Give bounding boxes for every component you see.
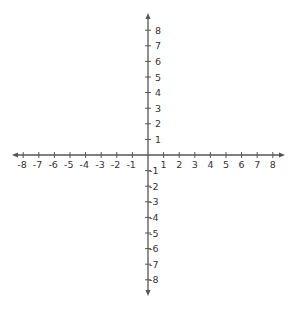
y-tick-label: -5	[149, 228, 158, 239]
x-tick-label: -7	[33, 159, 42, 170]
x-tick-label: -4	[80, 159, 89, 170]
x-tick-label: 8	[270, 159, 276, 170]
y-tick-label: -1	[149, 165, 158, 176]
y-tick-label: -3	[149, 196, 158, 207]
x-tick-label: 5	[223, 159, 229, 170]
x-tick-label: -8	[17, 159, 26, 170]
y-axis-down-arrow-icon	[146, 290, 151, 296]
y-tick-label: -2	[149, 181, 158, 192]
y-tick-label: 2	[155, 118, 161, 129]
y-tick-label: 8	[155, 25, 161, 36]
y-axis-up-arrow-icon	[146, 13, 151, 19]
x-axis-right-arrow-icon	[279, 153, 285, 158]
x-tick-label: -2	[111, 159, 120, 170]
y-tick-label: 6	[155, 56, 161, 67]
x-axis-left-arrow-icon	[12, 153, 18, 158]
x-tick-label: -5	[64, 159, 73, 170]
x-tick-label: 2	[176, 159, 182, 170]
y-tick-label: 7	[155, 40, 161, 51]
coordinate-plane: -8-7-6-5-4-3-2-112345678 87654321-1-2-3-…	[0, 0, 296, 309]
y-tick-label: 4	[155, 87, 161, 98]
y-tick-label: 1	[155, 134, 161, 145]
x-tick-label: 6	[239, 159, 245, 170]
x-tick-label: -6	[48, 159, 57, 170]
y-tick-label: -4	[149, 212, 158, 223]
x-tick-label: 3	[192, 159, 198, 170]
x-tick-label: 1	[161, 159, 167, 170]
x-tick-label: -1	[126, 159, 135, 170]
y-tick-label: -7	[149, 259, 158, 270]
x-tick-label: -3	[95, 159, 104, 170]
y-tick-label: -8	[149, 274, 158, 285]
y-tick-label: -6	[149, 243, 158, 254]
x-tick-label: 4	[207, 159, 213, 170]
x-tick-label: 7	[254, 159, 260, 170]
y-tick-label: 5	[155, 72, 161, 83]
y-tick-label: 3	[155, 103, 161, 114]
